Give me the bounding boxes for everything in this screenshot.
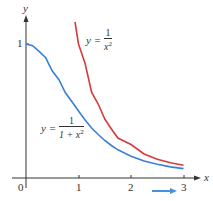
y-axis-label: y: [23, 3, 28, 14]
x-tick-label-2: 2: [128, 182, 134, 193]
blue-curve-equation: y = 1 1 + x2: [41, 116, 84, 140]
red-eq-exponent: 2: [109, 40, 113, 48]
red-curve-equation: y = 1 x2: [86, 28, 112, 52]
x-axis-label: x: [204, 172, 209, 183]
x-tick-label-1: 1: [76, 182, 82, 193]
origin-label: 0: [18, 182, 24, 193]
blue-eq-denominator: 1 + x: [59, 129, 80, 140]
direction-arrow-head-icon: [170, 188, 177, 194]
y-tick-label-1: 1: [17, 38, 23, 49]
x-axis-arrow-icon: [194, 176, 201, 181]
red-eq-lhs: y =: [86, 34, 101, 46]
x-tick-label-3: 3: [181, 182, 187, 193]
blue-eq-lhs: y =: [41, 122, 56, 134]
blue-eq-exponent: 2: [80, 128, 84, 136]
red-eq-numerator: 1: [106, 28, 111, 38]
series-blue-curve: [26, 44, 184, 169]
blue-eq-numerator: 1: [69, 116, 74, 126]
y-axis-arrow-icon: [24, 15, 29, 22]
